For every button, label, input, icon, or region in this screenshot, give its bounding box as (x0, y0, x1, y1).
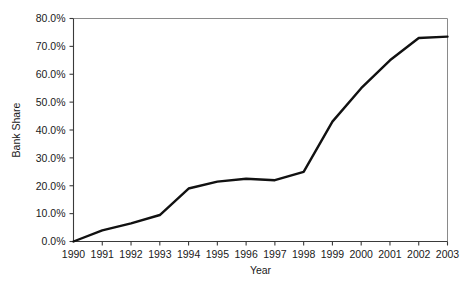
y-tick-label: 10.0% (36, 207, 66, 219)
line-chart: 0.0%10.0%20.0%30.0%40.0%50.0%60.0%70.0%8… (0, 0, 466, 287)
x-tick-label: 2002 (407, 248, 431, 260)
y-tick-label: 20.0% (36, 180, 66, 192)
y-tick-label: 70.0% (36, 40, 66, 52)
chart-container: 0.0%10.0%20.0%30.0%40.0%50.0%60.0%70.0%8… (0, 0, 466, 287)
x-tick-label: 1999 (321, 248, 345, 260)
x-tick-label: 1995 (206, 248, 230, 260)
x-tick-label: 1993 (148, 248, 172, 260)
y-tick-label: 30.0% (36, 152, 66, 164)
y-tick-label: 40.0% (36, 124, 66, 136)
series-line-bank-share (74, 37, 448, 242)
y-tick-label: 0.0% (42, 235, 66, 247)
y-tick-label: 80.0% (36, 12, 66, 24)
x-tick-label: 1996 (234, 248, 258, 260)
y-axis-ticks: 0.0%10.0%20.0%30.0%40.0%50.0%60.0%70.0%8… (36, 12, 74, 247)
x-tick-label: 2001 (378, 248, 402, 260)
x-axis-title: Year (250, 264, 272, 276)
x-tick-label: 1990 (62, 248, 86, 260)
y-tick-label: 50.0% (36, 96, 66, 108)
x-tick-label: 2003 (436, 248, 460, 260)
x-tick-label: 2000 (350, 248, 374, 260)
x-tick-label: 1992 (119, 248, 143, 260)
x-tick-label: 1998 (292, 248, 316, 260)
data-series-group (74, 37, 448, 242)
y-tick-label: 60.0% (36, 68, 66, 80)
y-axis-title: Bank Share (10, 102, 22, 157)
x-tick-label: 1997 (263, 248, 287, 260)
plot-frame (74, 19, 448, 242)
x-tick-label: 1991 (91, 248, 115, 260)
x-axis-ticks: 1990199119921993199419951996199719981999… (62, 242, 460, 260)
x-tick-label: 1994 (177, 248, 201, 260)
